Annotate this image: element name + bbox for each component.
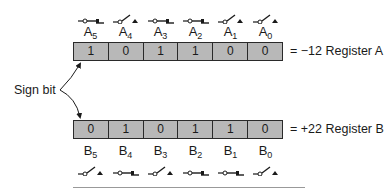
register-b-bit-1: 1: [213, 121, 248, 138]
register-b-bit-label-5: B5: [73, 143, 108, 160]
register-b-switch-5-open-icon: [78, 162, 104, 172]
divider-line: [73, 187, 305, 188]
register-b-bit-label-1: B1: [213, 143, 248, 160]
register-b-bit-label-2: B2: [178, 143, 213, 160]
register-b-switch-4-closed-icon: [113, 162, 139, 172]
register-b-switch-2-closed-icon: [183, 162, 209, 172]
register-b-bit-5: 0: [74, 121, 109, 138]
register-b-equation: = +22 Register B: [290, 122, 384, 136]
register-b-bit-label-3: B3: [143, 143, 178, 160]
register-b-bit-label-0: B0: [248, 143, 283, 160]
register-b-bit-0: 0: [248, 121, 282, 138]
register-b-bit-label-4: B4: [108, 143, 143, 160]
register-b-bit-3: 0: [144, 121, 179, 138]
register-b-switch-3-open-icon: [148, 162, 174, 172]
register-b-bit-4: 1: [109, 121, 144, 138]
register-b-switch-1-closed-icon: [218, 162, 244, 172]
register-b-bit-2: 1: [178, 121, 213, 138]
register-b-switch-0-open-icon: [253, 162, 279, 172]
register-b: 0 1 0 1 1 0: [73, 120, 283, 139]
